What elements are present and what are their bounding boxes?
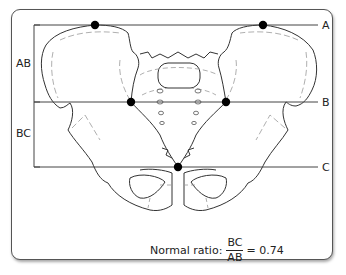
point-sacroiliac-right (222, 98, 230, 106)
right-ilium (218, 25, 316, 183)
label-line-A: A (322, 20, 330, 31)
label-bracket-AB: AB (16, 58, 31, 69)
normal-ratio-formula: Normal ratio: BC AB = 0.74 (150, 234, 284, 266)
sacrum (131, 52, 226, 167)
ratio-fraction: BC AB (226, 237, 243, 264)
label-line-C: C (322, 162, 330, 173)
point-sacroiliac-left (127, 98, 135, 106)
label-bracket-BC: BC (16, 128, 31, 139)
reference-lines (34, 25, 318, 167)
sacral-foramina (157, 89, 201, 125)
landmark-points (91, 21, 267, 171)
point-iliac-crest-right (259, 21, 267, 29)
point-iliac-crest-left (91, 21, 99, 29)
formula-result: = 0.74 (246, 244, 283, 257)
label-line-B: B (322, 97, 330, 108)
left-ilium (41, 25, 138, 183)
point-coccyx-tip (174, 163, 182, 171)
fraction-numerator: BC (226, 237, 243, 251)
pubic-region (108, 169, 248, 210)
fraction-denominator: AB (227, 251, 242, 264)
formula-prefix: Normal ratio: (150, 244, 222, 257)
